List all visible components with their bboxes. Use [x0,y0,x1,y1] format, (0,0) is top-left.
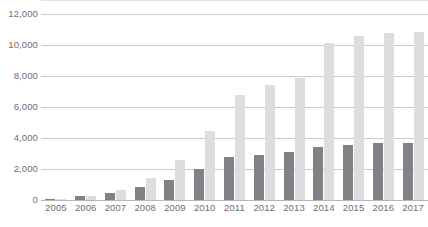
bar-groups [41,0,428,200]
x-axis-labels: 2005200620072008200920102011201220132014… [41,203,428,213]
bar-series-b [354,36,364,200]
x-axis-tick-label: 2015 [339,203,369,213]
bar-series-a [313,147,323,200]
bar-series-a [105,193,115,200]
x-axis-tick-label: 2006 [71,203,101,213]
bar-chart: 12,00010,0008,0006,0004,0002,0000 200520… [0,0,428,227]
bar-group [101,0,131,200]
y-axis-tick-label: 12,000 [0,9,38,19]
bar-series-b [175,160,185,200]
x-axis-tick-label: 2016 [368,203,398,213]
x-axis-tick-label: 2017 [398,203,428,213]
bar-series-b [414,32,424,200]
bar-series-b [265,85,275,200]
x-axis-tick-label: 2008 [130,203,160,213]
x-axis-tick-label: 2007 [101,203,131,213]
bar-series-a [135,187,145,200]
bar-group [130,0,160,200]
y-axis-tick-label: 6,000 [0,102,38,112]
x-axis-tick-label: 2010 [190,203,220,213]
x-axis-tick-label: 2009 [160,203,190,213]
bar-series-b [384,33,394,200]
bar-group [220,0,250,200]
y-axis-tick-label: 8,000 [0,71,38,81]
bar-series-b [86,196,96,200]
bar-series-b [56,199,66,200]
bar-series-a [343,145,353,200]
bar-group [339,0,369,200]
bar-group [160,0,190,200]
y-axis-tick-label: 10,000 [0,40,38,50]
bar-series-a [224,157,234,200]
bar-series-a [194,169,204,200]
bar-series-a [164,180,174,200]
bar-series-a [75,196,85,200]
x-axis-tick-label: 2013 [279,203,309,213]
bar-series-a [373,143,383,200]
gridline [41,200,428,201]
bar-series-a [45,199,55,200]
bar-group [190,0,220,200]
bar-series-a [284,152,294,200]
y-axis-tick-label: 2,000 [0,164,38,174]
bar-group [249,0,279,200]
plot-area [41,0,428,200]
bar-group [279,0,309,200]
bar-group [368,0,398,200]
y-axis-tick-label: 4,000 [0,133,38,143]
x-axis-tick-label: 2011 [220,203,250,213]
bar-series-b [295,78,305,200]
bar-series-b [116,190,126,200]
bar-group [41,0,71,200]
bar-series-b [235,95,245,200]
bar-series-b [205,131,215,200]
x-axis-tick-label: 2014 [309,203,339,213]
bar-series-a [254,155,264,200]
bar-group [398,0,428,200]
bar-group [309,0,339,200]
y-axis-labels: 12,00010,0008,0006,0004,0002,0000 [0,0,38,200]
x-axis-tick-label: 2005 [41,203,71,213]
bar-group [71,0,101,200]
bar-series-b [324,43,334,200]
bar-series-a [403,143,413,200]
x-axis-tick-label: 2012 [249,203,279,213]
y-axis-tick-label: 0 [0,195,38,205]
bar-series-b [146,178,156,200]
